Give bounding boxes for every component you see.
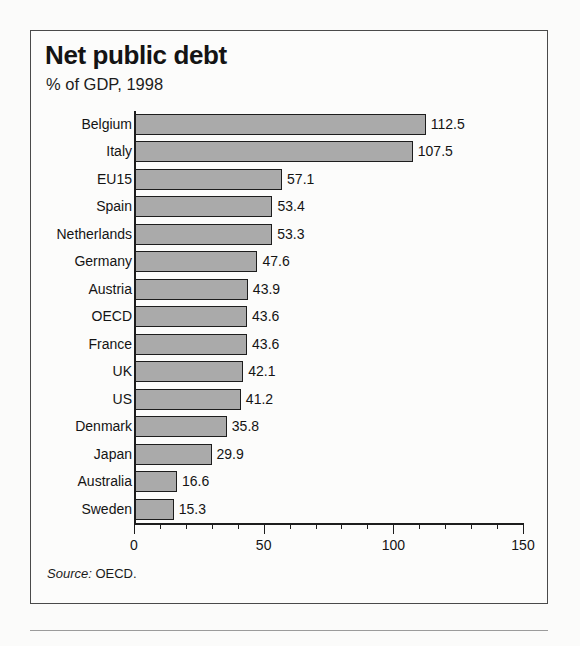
x-tick-label: 50: [256, 537, 272, 553]
bar-value-label: 43.6: [252, 331, 279, 358]
x-axis-line: [134, 523, 523, 525]
bar-row: OECD43.6: [31, 303, 549, 330]
chart-title: Net public debt: [45, 40, 227, 71]
chart-subtitle: % of GDP, 1998: [46, 75, 163, 94]
x-tick-minor: [419, 523, 420, 529]
category-label: Denmark: [31, 413, 132, 440]
bar-value-label: 53.3: [277, 221, 304, 248]
category-label: Austria: [31, 276, 132, 303]
bar-value-label: 57.1: [287, 166, 314, 193]
x-tick-minor: [238, 523, 239, 529]
bar: [134, 306, 247, 327]
x-tick-label: 150: [511, 537, 534, 553]
category-label: EU15: [31, 166, 132, 193]
x-tick-major: [134, 523, 135, 534]
plot-area: Belgium112.5Italy107.5EU1557.1Spain53.4N…: [31, 111, 549, 561]
y-axis-line: [134, 111, 136, 523]
bar: [134, 114, 426, 135]
bar: [134, 251, 257, 272]
category-label: Australia: [31, 468, 132, 495]
x-tick-major: [393, 523, 394, 534]
x-tick-minor: [212, 523, 213, 529]
x-tick-label: 100: [382, 537, 405, 553]
category-label: Japan: [31, 441, 132, 468]
category-label: UK: [31, 358, 132, 385]
bar-row: France43.6: [31, 331, 549, 358]
category-label: US: [31, 386, 132, 413]
bar-row: Germany47.6: [31, 248, 549, 275]
bar-value-label: 15.3: [179, 496, 206, 523]
bar-value-label: 35.8: [232, 413, 259, 440]
bar-row: Austria43.9: [31, 276, 549, 303]
bar-value-label: 43.9: [253, 276, 280, 303]
bar: [134, 334, 247, 355]
x-tick-major: [264, 523, 265, 534]
bar-row: Spain53.4: [31, 193, 549, 220]
bar-row: Netherlands53.3: [31, 221, 549, 248]
x-tick-label: 0: [130, 537, 138, 553]
category-label: Belgium: [31, 111, 132, 138]
category-label: OECD: [31, 303, 132, 330]
x-tick-major: [523, 523, 524, 534]
bar-row: EU1557.1: [31, 166, 549, 193]
bar-row: Sweden15.3: [31, 496, 549, 523]
category-label: France: [31, 331, 132, 358]
bar: [134, 169, 282, 190]
bar-row: UK42.1: [31, 358, 549, 385]
bar: [134, 196, 272, 217]
bar-row: Australia16.6: [31, 468, 549, 495]
bar: [134, 224, 272, 245]
bar-value-label: 112.5: [431, 111, 465, 138]
category-label: Italy: [31, 138, 132, 165]
category-label: Germany: [31, 248, 132, 275]
bar-row: Denmark35.8: [31, 413, 549, 440]
category-label: Spain: [31, 193, 132, 220]
x-tick-minor: [367, 523, 368, 529]
bar-value-label: 47.6: [262, 248, 289, 275]
bar: [134, 279, 248, 300]
bar: [134, 444, 212, 465]
bar-value-label: 42.1: [248, 358, 275, 385]
bar-value-label: 53.4: [277, 193, 304, 220]
bar-value-label: 41.2: [246, 386, 273, 413]
bar: [134, 471, 177, 492]
x-tick-minor: [497, 523, 498, 529]
x-tick-minor: [186, 523, 187, 529]
source-value: OECD.: [95, 566, 136, 581]
x-tick-minor: [471, 523, 472, 529]
bar-value-label: 29.9: [217, 441, 244, 468]
bar: [134, 499, 174, 520]
bar-value-label: 43.6: [252, 303, 279, 330]
source-note: Source: OECD.: [47, 566, 137, 581]
category-label: Netherlands: [31, 221, 132, 248]
bar-value-label: 107.5: [418, 138, 453, 165]
x-tick-minor: [316, 523, 317, 529]
chart-figure: Net public debt % of GDP, 1998 Belgium11…: [30, 30, 548, 604]
source-prefix: Source:: [47, 566, 92, 581]
bar: [134, 389, 241, 410]
bar: [134, 141, 413, 162]
bar-value-label: 16.6: [182, 468, 209, 495]
bar: [134, 361, 243, 382]
bar-row: US41.2: [31, 386, 549, 413]
x-tick-minor: [290, 523, 291, 529]
x-tick-minor: [445, 523, 446, 529]
bar-row: Italy107.5: [31, 138, 549, 165]
bar-row: Japan29.9: [31, 441, 549, 468]
bar-row: Belgium112.5: [31, 111, 549, 138]
bottom-divider: [30, 630, 548, 631]
x-tick-minor: [341, 523, 342, 529]
x-tick-minor: [160, 523, 161, 529]
bar: [134, 416, 227, 437]
category-label: Sweden: [31, 496, 132, 523]
